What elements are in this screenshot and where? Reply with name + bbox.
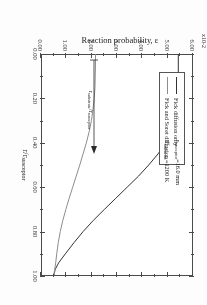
y-axis-tick	[192, 272, 193, 277]
x-axis-minor-tick	[191, 165, 194, 166]
y-axis-tick	[65, 53, 66, 58]
plot-area: 0.000.200.400.600.801.00 0.001.002.003.0…	[41, 54, 193, 276]
cond2-value: =1200 K	[164, 160, 171, 182]
y-axis-minor-tick	[179, 53, 180, 56]
y-axis-tick	[141, 53, 142, 58]
y-axis-tick	[141, 272, 142, 277]
x-axis-tick	[40, 143, 45, 144]
y-axis-title-main: Reaction probability,	[82, 35, 155, 45]
x-axis-minor-tick	[40, 121, 43, 122]
y-axis-minor-tick	[103, 53, 104, 56]
condition-susceptor-radius: rsusceptor=16.0 mm	[172, 140, 183, 185]
legend-item-label: Fick diffusion only	[173, 98, 180, 146]
y-axis-tick	[65, 272, 66, 277]
x-axis-tick-label: 0.40	[32, 137, 39, 148]
y-axis-title-symbol: ε	[155, 35, 159, 45]
y-axis-minor-tick	[53, 274, 54, 277]
x-axis-title-subscript: susceptor	[21, 157, 27, 180]
x-axis-minor-tick	[191, 121, 194, 122]
y-axis-minor-tick	[154, 53, 155, 56]
y-axis-tick	[167, 53, 168, 58]
y-axis-tick	[167, 272, 168, 277]
y-axis-minor-tick	[129, 53, 130, 56]
x-axis-title: r/rsusceptor	[21, 54, 31, 276]
annot-numerator-subscript: substrate	[87, 93, 92, 109]
y-axis-minor-tick	[78, 53, 79, 56]
x-axis-tick	[189, 143, 194, 144]
y-axis-tick	[116, 272, 117, 277]
y-axis-minor-tick	[78, 274, 79, 277]
x-axis-tick-label: 0.80	[32, 226, 39, 237]
radius-ratio-annotation: rsubstrate/rsusceptor	[87, 91, 95, 130]
y-axis-title: Reaction probability, ε	[20, 35, 207, 45]
y-axis-minor-tick	[53, 53, 54, 56]
figure-page: x10-2 0.000.200.400.600.801.00 0.001.002…	[0, 0, 207, 305]
x-axis-minor-tick	[40, 76, 43, 77]
x-axis-minor-tick	[191, 209, 194, 210]
y-axis-tick	[40, 272, 41, 277]
y-axis-tick	[91, 272, 92, 277]
x-axis-minor-tick	[40, 254, 43, 255]
x-axis-minor-tick	[191, 76, 194, 77]
x-axis-tick	[40, 98, 45, 99]
y-axis-minor-tick	[154, 274, 155, 277]
x-axis-tick	[189, 187, 194, 188]
rotated-figure-container: x10-2 0.000.200.400.600.801.00 0.001.002…	[0, 0, 207, 305]
x-axis-minor-tick	[40, 209, 43, 210]
x-axis-tick-label: 0.20	[32, 93, 39, 104]
x-axis-tick	[189, 98, 194, 99]
figure: x10-2 0.000.200.400.600.801.00 0.001.002…	[0, 0, 207, 305]
y-axis-tick	[192, 53, 193, 58]
x-axis-tick-label: 1.00	[32, 270, 39, 281]
x-axis-tick-label: 0.60	[32, 182, 39, 193]
cond2-subscript: substrate	[163, 144, 168, 160]
x-axis-tick	[40, 187, 45, 188]
legend-line-icon	[167, 77, 168, 94]
annot-denominator-subscript: susceptor	[87, 113, 92, 130]
y-axis-tick	[40, 53, 41, 58]
y-axis-minor-tick	[179, 274, 180, 277]
cond1-value: =16.0 mm	[175, 159, 182, 185]
cond1-subscript: susceptor	[174, 142, 179, 159]
x-axis-tick	[189, 232, 194, 233]
legend-line-icon	[176, 77, 177, 94]
condition-substrate-temperature: Tsubstrate=1200 K	[161, 140, 172, 185]
y-axis-minor-tick	[103, 274, 104, 277]
x-axis-minor-tick	[40, 165, 43, 166]
y-axis-tick	[116, 53, 117, 58]
conditions-annotation: rsusceptor=16.0 mm Tsubstrate=1200 K	[161, 140, 183, 185]
y-axis-minor-tick	[129, 274, 130, 277]
x-axis-minor-tick	[191, 254, 194, 255]
x-axis-tick	[40, 232, 45, 233]
